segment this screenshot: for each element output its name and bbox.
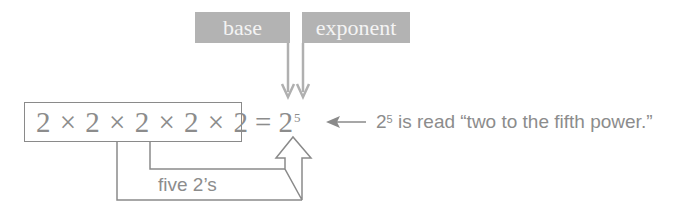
note-exponent: 5 xyxy=(387,113,393,125)
exponent-diagram: base exponent 2 × 2 × 2 × 2 × 2 = 25 25 … xyxy=(0,0,692,215)
exponent-down-arrow-icon xyxy=(297,43,309,97)
product-expression: 2 × 2 × 2 × 2 × 2 xyxy=(36,102,248,142)
exponent-label: exponent xyxy=(302,12,410,43)
base-down-arrow-icon xyxy=(282,43,294,97)
note-text: is read “two to the fifth power.” xyxy=(393,111,653,132)
note-base: 2 xyxy=(376,111,387,132)
power-reading-note: 25 is read “two to the fifth power.” xyxy=(376,106,653,138)
power-exponent: 5 xyxy=(294,110,301,125)
power-base: = 2 xyxy=(255,106,293,138)
power-expression: = 25 xyxy=(255,102,301,142)
left-arrow-icon xyxy=(326,116,366,128)
base-label: base xyxy=(195,12,290,43)
count-label: five 2’s xyxy=(158,172,217,198)
